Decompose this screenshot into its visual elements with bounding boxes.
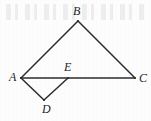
- vertex-label-a: A: [9, 71, 16, 83]
- segment-ad: [21, 78, 44, 100]
- segment-de: [44, 78, 68, 100]
- segment-layer: [21, 21, 135, 100]
- geometry-line-drawing: [0, 0, 151, 121]
- vertex-label-c: C: [139, 72, 147, 84]
- vertex-label-b: B: [73, 5, 80, 17]
- vertex-point-a: [20, 77, 22, 79]
- vertex-point-e: [67, 77, 69, 79]
- vertex-label-e: E: [64, 61, 71, 73]
- vertex-point-c: [134, 77, 136, 79]
- segment-bc: [78, 21, 135, 78]
- vertex-point-d: [43, 99, 45, 101]
- geometry-figure: ABCDE: [0, 0, 151, 121]
- vertex-label-d: D: [42, 103, 51, 115]
- vertex-point-b: [77, 20, 79, 22]
